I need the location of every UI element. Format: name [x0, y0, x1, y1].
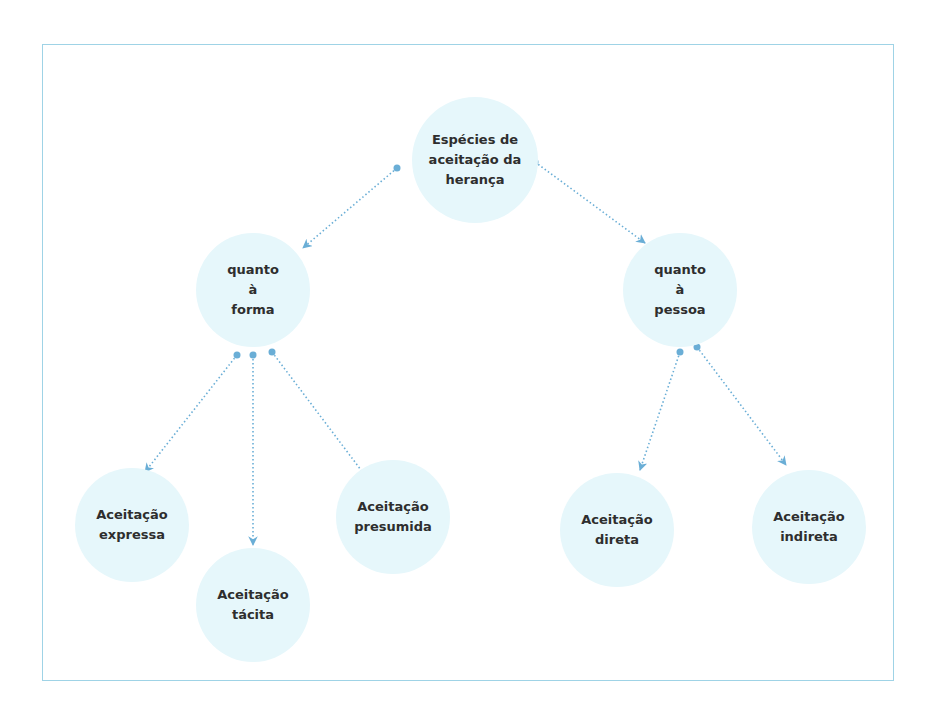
connector-pessoa-indireta	[697, 347, 786, 465]
connector-forma-expressa	[145, 355, 237, 472]
node-aceitacao-indireta: Aceitação indireta	[752, 470, 866, 584]
node-label: quanto à forma	[227, 260, 279, 320]
node-label: Aceitação expressa	[96, 505, 167, 545]
node-aceitacao-direta: Aceitação direta	[560, 473, 674, 587]
node-label: Espécies de aceitação da herança	[429, 130, 522, 190]
connector-dot	[269, 349, 276, 356]
node-label: Aceitação direta	[581, 510, 652, 550]
connector-pessoa-direta	[640, 352, 680, 470]
connector-dot	[677, 349, 684, 356]
node-label: Aceitação indireta	[773, 507, 844, 547]
node-label: Aceitação presumida	[354, 497, 432, 537]
node-aceitacao-tacita: Aceitação tácita	[196, 548, 310, 662]
connector-dot	[394, 165, 401, 172]
node-quanto-a-pessoa: quanto à pessoa	[623, 233, 737, 347]
node-aceitacao-presumida: Aceitação presumida	[336, 460, 450, 574]
node-aceitacao-expressa: Aceitação expressa	[75, 468, 189, 582]
node-label: quanto à pessoa	[654, 260, 706, 320]
connector-root-forma	[303, 168, 397, 248]
connector-dot	[234, 352, 241, 359]
node-quanto-a-forma: quanto à forma	[196, 233, 310, 347]
node-label: Aceitação tácita	[217, 585, 288, 625]
connector-forma-presumida	[272, 352, 367, 478]
connector-root-pessoa	[535, 162, 645, 243]
connector-dot	[250, 352, 257, 359]
node-root: Espécies de aceitação da herança	[412, 97, 538, 223]
